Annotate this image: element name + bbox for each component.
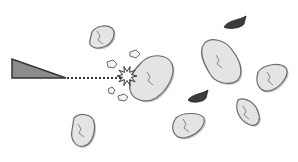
asteroid-bottom-center [173, 114, 206, 140]
game-canvas [0, 0, 298, 162]
enemy-ship-top [224, 16, 246, 28]
asteroid-center-big [202, 40, 243, 85]
ship-triangle-icon [12, 59, 66, 78]
asteroid-bottom-right [237, 99, 261, 127]
fragment-2 [107, 60, 117, 68]
fragment-3 [108, 87, 115, 94]
game-scene [0, 0, 298, 162]
asteroid-bottom-left [72, 115, 96, 148]
asteroid-field [72, 26, 289, 148]
fragment-4 [118, 94, 128, 101]
asteroid-large-hit [129, 56, 174, 103]
fragment-1 [130, 50, 140, 58]
asteroid-right [257, 65, 289, 93]
asteroid-top-left [90, 26, 116, 50]
enemy-ship-middle [188, 90, 208, 102]
player-ship [12, 59, 66, 78]
